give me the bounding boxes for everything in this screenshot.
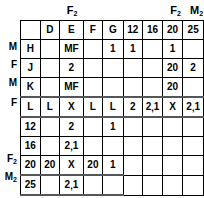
genotype-table: D E F G 12 16 20 25 H MF 1 1 1 <box>20 20 204 196</box>
table-row: J 2 20 2 <box>21 59 204 78</box>
column-caption-f2-right: F2 <box>165 2 186 20</box>
header-cell-12: 12 <box>123 21 143 40</box>
cell-j-25: 2 <box>183 59 204 78</box>
row-label-6: F2 <box>0 150 20 168</box>
row-key-k: K <box>21 78 41 98</box>
cell-16-d <box>40 137 60 156</box>
column-group-captions: F2 F2 M2 <box>20 0 204 20</box>
cell-void <box>162 175 183 195</box>
row-label-4 <box>0 114 20 132</box>
cell-12-f <box>83 117 103 137</box>
table-row-highlighted: L L X L L 2 2,1 X 2,1 <box>21 97 204 117</box>
cell-k-f <box>83 78 103 98</box>
cell-l-20: X <box>162 97 183 117</box>
row-key-j: J <box>21 59 41 78</box>
cell-void <box>162 117 183 137</box>
cell-void <box>162 156 183 176</box>
cell-j-d <box>40 59 60 78</box>
table-body: D E F G 12 16 20 25 H MF 1 1 1 <box>21 21 204 196</box>
cell-20-e: X <box>60 156 84 176</box>
cell-j-12 <box>123 59 143 78</box>
table-row: 16 2,1 <box>21 137 204 156</box>
cell-16-e: 2,1 <box>60 137 84 156</box>
row-label-3: F <box>0 92 20 114</box>
header-cell-d: D <box>40 21 60 40</box>
cell-void <box>123 137 143 156</box>
cell-12-g: 1 <box>103 117 123 137</box>
cell-h-d <box>40 40 60 59</box>
cell-h-20: 1 <box>162 40 183 59</box>
cell-void <box>123 156 143 176</box>
cell-l-d: L <box>40 97 60 117</box>
cell-h-16 <box>143 40 163 59</box>
cell-l-e: X <box>60 97 84 117</box>
header-cell-e: E <box>60 21 84 40</box>
row-label-1: F <box>0 56 20 74</box>
row-key-20: 20 <box>21 156 41 176</box>
header-cell-f: F <box>83 21 103 40</box>
cell-20-g: 1 <box>103 156 123 176</box>
row-label-7: M2 <box>0 168 20 186</box>
table-row: 12 2 1 <box>21 117 204 137</box>
row-label-gutter: M F M F F2 M2 <box>0 20 20 186</box>
cell-h-12: 1 <box>123 40 143 59</box>
table-header-row: D E F G 12 16 20 25 <box>21 21 204 40</box>
cell-h-e: MF <box>60 40 84 59</box>
table-row: 20 20 X 20 1 <box>21 156 204 176</box>
cell-16-f <box>83 137 103 156</box>
cell-25-e: 2,1 <box>60 175 84 195</box>
cell-k-e: MF <box>60 78 84 98</box>
cell-j-f <box>83 59 103 78</box>
cell-void <box>143 117 163 137</box>
cell-k-d <box>40 78 60 98</box>
cell-j-g <box>103 59 123 78</box>
cell-l-f: L <box>83 97 103 117</box>
cell-25-g <box>103 175 123 195</box>
cell-l-g: L <box>103 97 123 117</box>
header-cell-g: G <box>103 21 123 40</box>
cell-void <box>183 156 204 176</box>
cell-j-e: 2 <box>60 59 84 78</box>
cell-void <box>123 117 143 137</box>
cell-25-f <box>83 175 103 195</box>
row-label-header <box>0 20 20 38</box>
cell-k-g <box>103 78 123 98</box>
cell-20-d: 20 <box>40 156 60 176</box>
cell-void <box>183 137 204 156</box>
cell-h-g: 1 <box>103 40 123 59</box>
cell-25-d <box>40 175 60 195</box>
row-key-h: H <box>21 40 41 59</box>
cell-void <box>143 156 163 176</box>
cell-void <box>162 137 183 156</box>
cell-k-20: 20 <box>162 78 183 98</box>
cell-l-12: 2 <box>123 97 143 117</box>
header-cell-25: 25 <box>183 21 204 40</box>
cell-12-d <box>40 117 60 137</box>
column-caption-m2-right: M2 <box>186 2 204 20</box>
row-key-12: 12 <box>21 117 41 137</box>
cell-void <box>183 175 204 195</box>
cell-void <box>143 137 163 156</box>
table-row: K MF 20 <box>21 78 204 98</box>
cell-void <box>183 117 204 137</box>
table-row: 25 2,1 <box>21 175 204 195</box>
row-label-2: M <box>0 74 20 92</box>
cell-l-16: 2,1 <box>143 97 163 117</box>
cell-j-20: 20 <box>162 59 183 78</box>
cell-void <box>123 175 143 195</box>
cell-l-25: 2,1 <box>183 97 204 117</box>
cell-k-12 <box>123 78 143 98</box>
cell-k-25 <box>183 78 204 98</box>
row-key-16: 16 <box>21 137 41 156</box>
row-label-0: M <box>0 38 20 56</box>
cell-20-f: 20 <box>83 156 103 176</box>
cell-16-g <box>103 137 123 156</box>
cell-h-f <box>83 40 103 59</box>
cell-void <box>143 175 163 195</box>
row-key-l: L <box>21 97 41 117</box>
table-row: H MF 1 1 1 <box>21 40 204 59</box>
header-cell-16: 16 <box>143 21 163 40</box>
cell-12-e: 2 <box>60 117 84 137</box>
diagram-canvas: F2 F2 M2 M F M F F2 M2 D E F G 12 16 <box>0 0 204 198</box>
row-key-25: 25 <box>21 175 41 195</box>
